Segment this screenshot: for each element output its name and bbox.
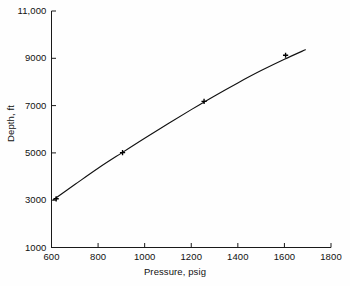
data-point-marker <box>283 53 288 58</box>
x-tick-label: 600 <box>43 252 59 262</box>
x-tick-label: 1400 <box>227 252 249 262</box>
y-axis-ticks <box>52 11 57 248</box>
y-axis-label: Depth, ft <box>5 94 16 154</box>
x-tick-label: 1200 <box>180 252 202 262</box>
plot-canvas <box>0 0 350 286</box>
x-axis-label: Pressure, psig <box>0 266 350 277</box>
x-tick-label: 1600 <box>274 252 296 262</box>
x-tick-label: 1000 <box>134 252 156 262</box>
y-axis-label-wrapper: Depth, ft <box>2 0 16 286</box>
data-curve <box>53 50 305 200</box>
x-tick-label: 800 <box>90 252 106 262</box>
x-axis-ticks <box>52 243 332 248</box>
axis-spines <box>51 11 331 248</box>
x-tick-label: 1800 <box>320 252 342 262</box>
chart-figure: 1000300050007000900011,000 6008001000120… <box>0 0 350 286</box>
